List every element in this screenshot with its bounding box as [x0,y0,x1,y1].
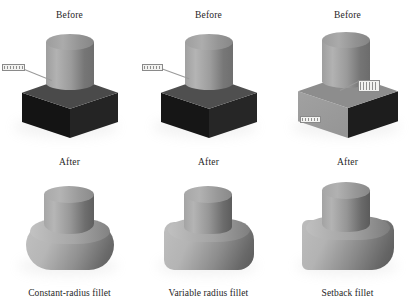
after-model-constant-radius [0,168,139,280]
cylinder-top-face [46,34,94,50]
render-stage [278,168,417,280]
callout-text-glyphs [360,82,378,90]
callout-text-glyphs [144,66,161,69]
cylinder-top-face [185,34,233,50]
callout-text-glyphs [4,66,23,69]
after-heading-column-2: After [139,157,278,167]
before-model-setback [278,24,417,144]
edge-selection-callout[interactable] [2,64,25,71]
before-heading-column-2: Before [139,10,278,20]
render-stage [139,24,278,144]
render-stage [139,168,278,280]
edge-setback-callout[interactable] [300,116,321,123]
caption-constant-radius-fillet: Constant-radius fillet [0,288,139,298]
fillet-types-figure: Before Before Before [0,0,417,308]
before-heading-column-3: Before [278,10,417,20]
render-stage [0,168,139,280]
before-model-constant-radius [0,24,139,144]
callout-text-glyphs [302,118,319,121]
cylinder-top-face [44,186,94,203]
after-heading-column-1: After [0,157,139,167]
vertex-setback-callout[interactable] [358,80,380,92]
before-heading-column-1: Before [0,10,139,20]
caption-variable-radius-fillet: Variable radius fillet [139,288,278,298]
cylinder-top-face [322,182,370,199]
caption-setback-fillet: Setback fillet [278,288,417,298]
edge-selection-callout[interactable] [142,64,163,71]
after-model-variable-radius [139,168,278,280]
before-model-variable-radius [139,24,278,144]
render-stage [0,24,139,144]
after-model-setback [278,168,417,280]
cylinder-top-face [184,186,232,203]
render-stage [278,24,417,144]
after-heading-column-3: After [278,157,417,167]
cylinder-top-face [322,32,370,48]
